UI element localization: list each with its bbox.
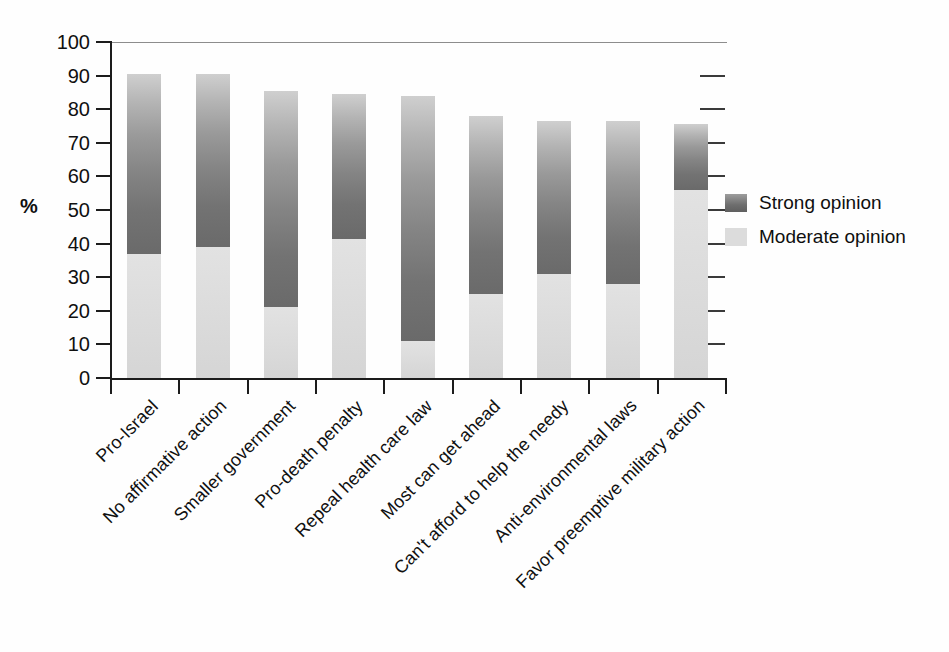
x-axis-label: Pro-Israel (92, 396, 163, 467)
bar-group (332, 94, 366, 378)
bar-segment-moderate-opinion (674, 190, 708, 378)
legend-label: Strong opinion (759, 192, 882, 214)
bar-segment-strong-opinion (606, 121, 640, 284)
bar-group (196, 74, 230, 378)
x-axis-tick (725, 380, 727, 394)
y-axis-label: 20 (42, 301, 90, 321)
bar-segment-moderate-opinion (264, 307, 298, 378)
y-axis-label: 30 (42, 267, 90, 287)
y-axis-label: 90 (42, 66, 90, 86)
stacked-bar-chart: % 0102030405060708090100 Pro-IsraelNo af… (0, 0, 949, 652)
y-axis-label: 70 (42, 133, 90, 153)
x-axis-tick (520, 380, 522, 394)
bar-group (537, 121, 571, 378)
x-axis-line (110, 378, 727, 380)
bar-segment-strong-opinion (537, 121, 571, 274)
x-axis-tick (178, 380, 180, 394)
x-axis-tick (452, 380, 454, 394)
x-axis-label: Repeal health care law (291, 396, 437, 542)
bar-group (674, 124, 708, 378)
bar-segment-strong-opinion (401, 96, 435, 341)
x-axis-label: Most can get ahead (377, 396, 505, 524)
x-axis-tick (247, 380, 249, 394)
bar-segment-moderate-opinion (469, 294, 503, 378)
chart-legend: Strong opinionModerate opinion (725, 186, 906, 254)
legend-item[interactable]: Moderate opinion (725, 220, 906, 254)
bar-segment-moderate-opinion (127, 254, 161, 378)
x-axis-tick (657, 380, 659, 394)
y-axis-label: 60 (42, 166, 90, 186)
x-axis-tick (383, 380, 385, 394)
x-axis-tick (315, 380, 317, 394)
bar-segment-moderate-opinion (196, 247, 230, 378)
y-axis-label: 0 (42, 368, 90, 388)
legend-swatch-moderate-icon (725, 228, 747, 246)
y-axis-label: 40 (42, 234, 90, 254)
bar-segment-strong-opinion (674, 124, 708, 190)
bar-segment-moderate-opinion (401, 341, 435, 378)
bar-segment-strong-opinion (127, 74, 161, 254)
bar-segment-strong-opinion (196, 74, 230, 247)
y-axis-title: % (20, 195, 38, 218)
legend-label: Moderate opinion (759, 226, 906, 248)
bar-segment-strong-opinion (469, 116, 503, 294)
y-axis-label: 80 (42, 99, 90, 119)
x-axis-tick (588, 380, 590, 394)
bar-segment-strong-opinion (264, 91, 298, 308)
y-axis-label: 100 (42, 32, 90, 52)
bar-segment-strong-opinion (332, 94, 366, 238)
bar-group (401, 96, 435, 378)
x-axis-label: Smaller government (170, 396, 300, 526)
bars-layer (110, 42, 725, 378)
bar-segment-moderate-opinion (606, 284, 640, 378)
legend-item[interactable]: Strong opinion (725, 186, 906, 220)
y-axis-label: 50 (42, 200, 90, 220)
y-axis-label: 10 (42, 334, 90, 354)
bar-group (606, 121, 640, 378)
bar-segment-moderate-opinion (537, 274, 571, 378)
bar-group (469, 116, 503, 378)
bar-group (127, 74, 161, 378)
legend-swatch-strong-icon (725, 194, 747, 212)
bar-segment-moderate-opinion (332, 239, 366, 378)
x-axis-label: No affirmative action (99, 396, 231, 528)
x-axis-tick (110, 380, 112, 394)
bar-group (264, 91, 298, 378)
